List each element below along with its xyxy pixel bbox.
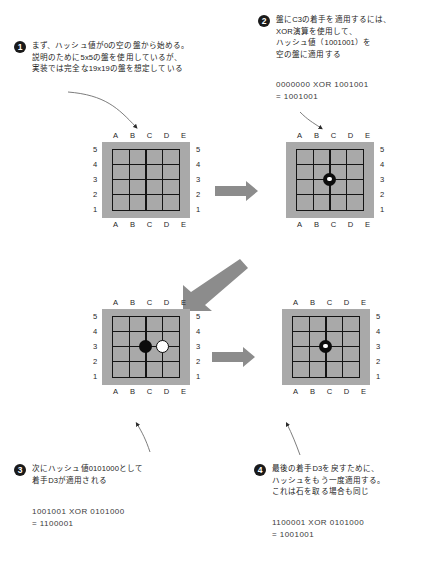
callout-step-2: 2 盤にC3の着手を適用するには、 XOR演算を使用して、 ハッシュ値（1001… bbox=[258, 14, 391, 60]
board-col-label-D: D bbox=[346, 132, 355, 140]
formula-line: = 1001001 bbox=[272, 529, 364, 541]
board-row-label-5-right: 5 bbox=[194, 313, 202, 321]
board-col-label-B: B bbox=[128, 132, 137, 140]
board-grid bbox=[296, 149, 364, 211]
grid-line-horizontal bbox=[112, 164, 180, 165]
board-row-label-4-left: 4 bbox=[91, 328, 99, 336]
board-row-label-5-left: 5 bbox=[91, 313, 99, 321]
grid-line-horizontal bbox=[112, 316, 180, 317]
step-text-2: 盤にC3の着手を適用するには、 XOR演算を使用して、 ハッシュ値（100100… bbox=[276, 14, 391, 60]
board-col-label-D: D bbox=[342, 299, 351, 307]
board-col-label-E-bottom: E bbox=[359, 388, 368, 396]
board-col-label-A: A bbox=[111, 132, 120, 140]
board-4: A B C D E A B C D E 5 4 3 2 1 bbox=[268, 297, 386, 397]
board-col-label-A-bottom: A bbox=[111, 388, 120, 396]
board-row-label-2-right: 2 bbox=[194, 191, 202, 199]
board-row-label-3-left: 3 bbox=[91, 343, 99, 351]
board-row-label-4-right: 4 bbox=[194, 328, 202, 336]
grid-line-horizontal bbox=[292, 331, 360, 332]
board-col-label-B-bottom: B bbox=[308, 388, 317, 396]
step-text-line: まず、ハッシュ値が0の空の盤から始める。 bbox=[32, 40, 189, 52]
board-col-label-A: A bbox=[291, 299, 300, 307]
board-col-label-E-bottom: E bbox=[179, 221, 188, 229]
board-col-label-C: C bbox=[325, 299, 334, 307]
formula-line: 1100001 XOR 0101000 bbox=[272, 517, 364, 529]
arrow-board3-to-board4 bbox=[212, 347, 255, 367]
board-col-label-E: E bbox=[363, 132, 372, 140]
board-row-label-4-left: 4 bbox=[91, 161, 99, 169]
formula-step-3: 1001001 XOR 0101000 = 1100001 bbox=[32, 506, 125, 530]
board-col-label-A-bottom: A bbox=[295, 221, 304, 229]
grid-line-horizontal bbox=[112, 179, 180, 180]
grid-line-horizontal bbox=[112, 331, 180, 332]
formula-line: = 1100001 bbox=[32, 518, 125, 530]
grid-line-horizontal bbox=[296, 149, 364, 150]
step-number-badge-3: 3 bbox=[14, 464, 26, 476]
step-text-line: 盤にC3の着手を適用するには、 bbox=[276, 14, 391, 26]
board-row-label-4-right: 4 bbox=[378, 161, 386, 169]
board-1: A B C D E A B C D E 5 4 3 2 1 5 4 3 2 1 bbox=[88, 130, 206, 230]
board-row-label-3-right: 3 bbox=[374, 343, 382, 351]
board-col-label-E-bottom: E bbox=[363, 221, 372, 229]
board-row-label-5-right: 5 bbox=[378, 146, 386, 154]
diagram-canvas: 1 まず、ハッシュ値が0の空の盤から始める。 説明のために5x5の盤を使用してい… bbox=[0, 0, 421, 563]
board-row-label-3-left: 3 bbox=[91, 176, 99, 184]
formula-line: 0000000 XOR 1001001 bbox=[276, 79, 369, 91]
board-row-label-1-right: 1 bbox=[194, 206, 202, 214]
stone-black-marked-C3 bbox=[319, 340, 332, 353]
grid-line-horizontal bbox=[296, 164, 364, 165]
board-col-label-B: B bbox=[312, 132, 321, 140]
board-2: A B C D E A B C D E 5 4 3 2 1 bbox=[272, 130, 390, 230]
grid-line-horizontal bbox=[292, 361, 360, 362]
grid-line-horizontal bbox=[112, 210, 180, 211]
callout-step-3: 3 次にハッシュ値0101000として 着手D3が適用される bbox=[14, 463, 143, 486]
board-row-label-5-right: 5 bbox=[194, 146, 202, 154]
stone-black-marked-C3 bbox=[323, 173, 336, 186]
board-row-label-5-left: 5 bbox=[91, 146, 99, 154]
board-row-label-1-right: 1 bbox=[374, 373, 382, 381]
step-text-line: これは石を取る場合も同じ bbox=[272, 486, 385, 498]
board-row-label-2-right: 2 bbox=[378, 191, 386, 199]
board-col-label-C: C bbox=[329, 132, 338, 140]
board-row-label-2-right: 2 bbox=[374, 358, 382, 366]
board-row-label-3-right: 3 bbox=[194, 176, 202, 184]
step-number-badge-1: 1 bbox=[14, 41, 26, 53]
board-col-label-B-bottom: B bbox=[128, 221, 137, 229]
grid-line-horizontal bbox=[296, 194, 364, 195]
board-row-label-1-right: 1 bbox=[194, 373, 202, 381]
board-col-label-A-bottom: A bbox=[111, 221, 120, 229]
stone-black-C3 bbox=[139, 340, 152, 353]
board-col-label-A: A bbox=[111, 299, 120, 307]
board-row-label-4-right: 4 bbox=[194, 161, 202, 169]
step-text-line: 最後の着手D3を戻すために、 bbox=[272, 463, 385, 475]
pointer-step3-to-board3 bbox=[137, 424, 150, 452]
step-text-line: 次にハッシュ値0101000として bbox=[32, 463, 143, 475]
step-text-4: 最後の着手D3を戻すために、 ハッシュをもう一度適用する。 これは石を取る場合も… bbox=[272, 463, 385, 498]
board-row-label-1-left: 1 bbox=[91, 373, 99, 381]
board-row-label-2-left: 2 bbox=[91, 358, 99, 366]
formula-step-2: 0000000 XOR 1001001 = 1001001 bbox=[276, 79, 369, 103]
board-col-label-D-bottom: D bbox=[346, 221, 355, 229]
grid-line-horizontal bbox=[112, 377, 180, 378]
formula-step-4: 1100001 XOR 0101000 = 1001001 bbox=[272, 517, 364, 541]
arrow-board1-to-board2 bbox=[215, 181, 258, 201]
step-text-line: XOR演算を使用して、 bbox=[276, 26, 391, 38]
step-text-line: ハッシュ値（1001001）を bbox=[276, 37, 391, 49]
step-text-line: ハッシュをもう一度適用する。 bbox=[272, 475, 385, 487]
board-col-label-B-bottom: B bbox=[128, 388, 137, 396]
step-text-line: 実装では完全な19x19の盤を想定している bbox=[32, 63, 189, 75]
step-number-badge-2: 2 bbox=[258, 15, 270, 27]
step-text-1: まず、ハッシュ値が0の空の盤から始める。 説明のために5x5の盤を使用しているが… bbox=[32, 40, 189, 75]
board-col-label-B: B bbox=[128, 299, 137, 307]
pointer-step2-to-board2 bbox=[300, 112, 321, 128]
board-col-label-D-bottom: D bbox=[162, 388, 171, 396]
board-col-label-C-bottom: C bbox=[329, 221, 338, 229]
board-col-label-A-bottom: A bbox=[291, 388, 300, 396]
board-grid bbox=[292, 316, 360, 378]
board-col-label-A: A bbox=[295, 132, 304, 140]
grid-line-horizontal bbox=[292, 316, 360, 317]
pointer-step1-to-board1 bbox=[68, 92, 136, 127]
board-col-label-D: D bbox=[162, 132, 171, 140]
step-number-badge-4: 4 bbox=[254, 464, 266, 476]
board-col-label-C-bottom: C bbox=[145, 388, 154, 396]
